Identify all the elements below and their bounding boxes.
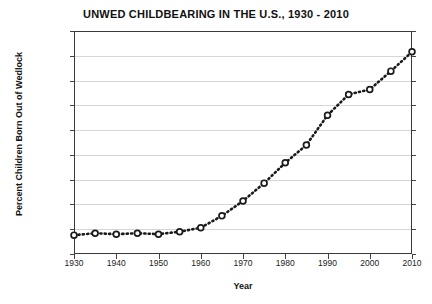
x-axis-label: Year	[74, 281, 412, 291]
data-point-marker	[388, 68, 394, 74]
data-series-unwed-childbearing	[0, 0, 432, 304]
data-point-marker	[198, 225, 204, 231]
data-point-marker	[367, 87, 373, 93]
data-point-marker	[303, 142, 309, 148]
data-point-marker	[177, 229, 183, 235]
data-point-marker	[92, 230, 98, 236]
data-point-marker	[240, 198, 246, 204]
data-point-marker	[134, 230, 140, 236]
data-point-marker	[156, 231, 162, 237]
data-point-marker	[261, 180, 267, 186]
series-line	[74, 52, 412, 235]
data-point-marker	[409, 49, 415, 55]
data-point-marker	[282, 160, 288, 166]
data-point-marker	[113, 231, 119, 237]
chart-container: UNWED CHILDBEARING IN THE U.S., 1930 - 2…	[0, 0, 432, 304]
data-point-marker	[219, 213, 225, 219]
data-point-marker	[325, 112, 331, 118]
data-point-marker	[346, 92, 352, 98]
data-point-marker	[71, 232, 77, 238]
